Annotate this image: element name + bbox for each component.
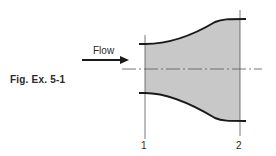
flow-label: Flow [93,45,114,56]
figure-caption: Fig. Ex. 5-1 [10,74,65,85]
flow-arrow-icon [82,56,129,64]
section-label-1: 1 [141,140,147,151]
section-label-2: 2 [236,140,242,151]
